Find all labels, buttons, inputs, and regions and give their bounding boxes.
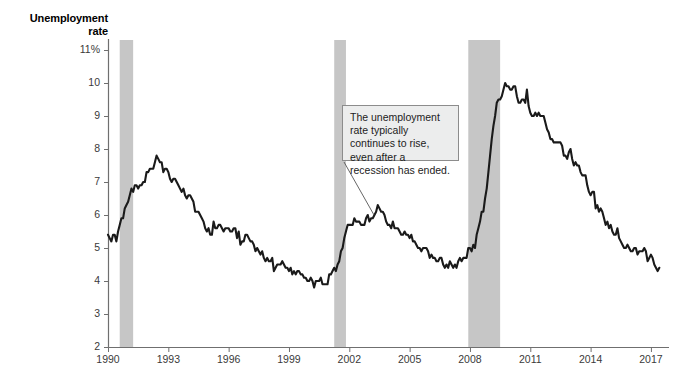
x-axis-tick-label: 2014 xyxy=(568,354,614,365)
x-axis-tick-label: 1996 xyxy=(206,354,252,365)
y-axis-tick-label: 9 xyxy=(66,110,100,121)
annotation-callout: The unemployment rate typically continue… xyxy=(342,105,459,161)
recession-band xyxy=(334,40,346,347)
recession-band xyxy=(468,40,500,347)
x-axis-tick-label: 2008 xyxy=(447,354,493,365)
x-axis-tick-label: 1990 xyxy=(85,354,131,365)
y-axis-tick-label: 6 xyxy=(66,209,100,220)
y-axis-tick-label: 4 xyxy=(66,275,100,286)
y-axis-tick-label: 3 xyxy=(66,308,100,319)
y-axis-tick-label: 8 xyxy=(66,143,100,154)
unemployment-rate-chart: Unemployment rate 11%1098765432 19901993… xyxy=(0,0,675,370)
y-axis-tick-label: 2 xyxy=(66,341,100,352)
x-axis-tick-label: 2011 xyxy=(507,354,553,365)
x-axis-tick-label: 1999 xyxy=(266,354,312,365)
y-axis-tick-label: 11% xyxy=(66,44,100,55)
recession-bands-layer xyxy=(120,40,500,347)
y-axis-tick-label: 10 xyxy=(66,77,100,88)
y-axis-tick-label: 7 xyxy=(66,176,100,187)
x-axis-tick-label: 2002 xyxy=(326,354,372,365)
x-axis-tick-label: 2017 xyxy=(628,354,674,365)
chart-canvas xyxy=(0,0,675,370)
x-axis-tick-label: 1993 xyxy=(145,354,191,365)
y-axis-tick-label: 5 xyxy=(66,242,100,253)
x-axis-tick-label: 2005 xyxy=(387,354,433,365)
